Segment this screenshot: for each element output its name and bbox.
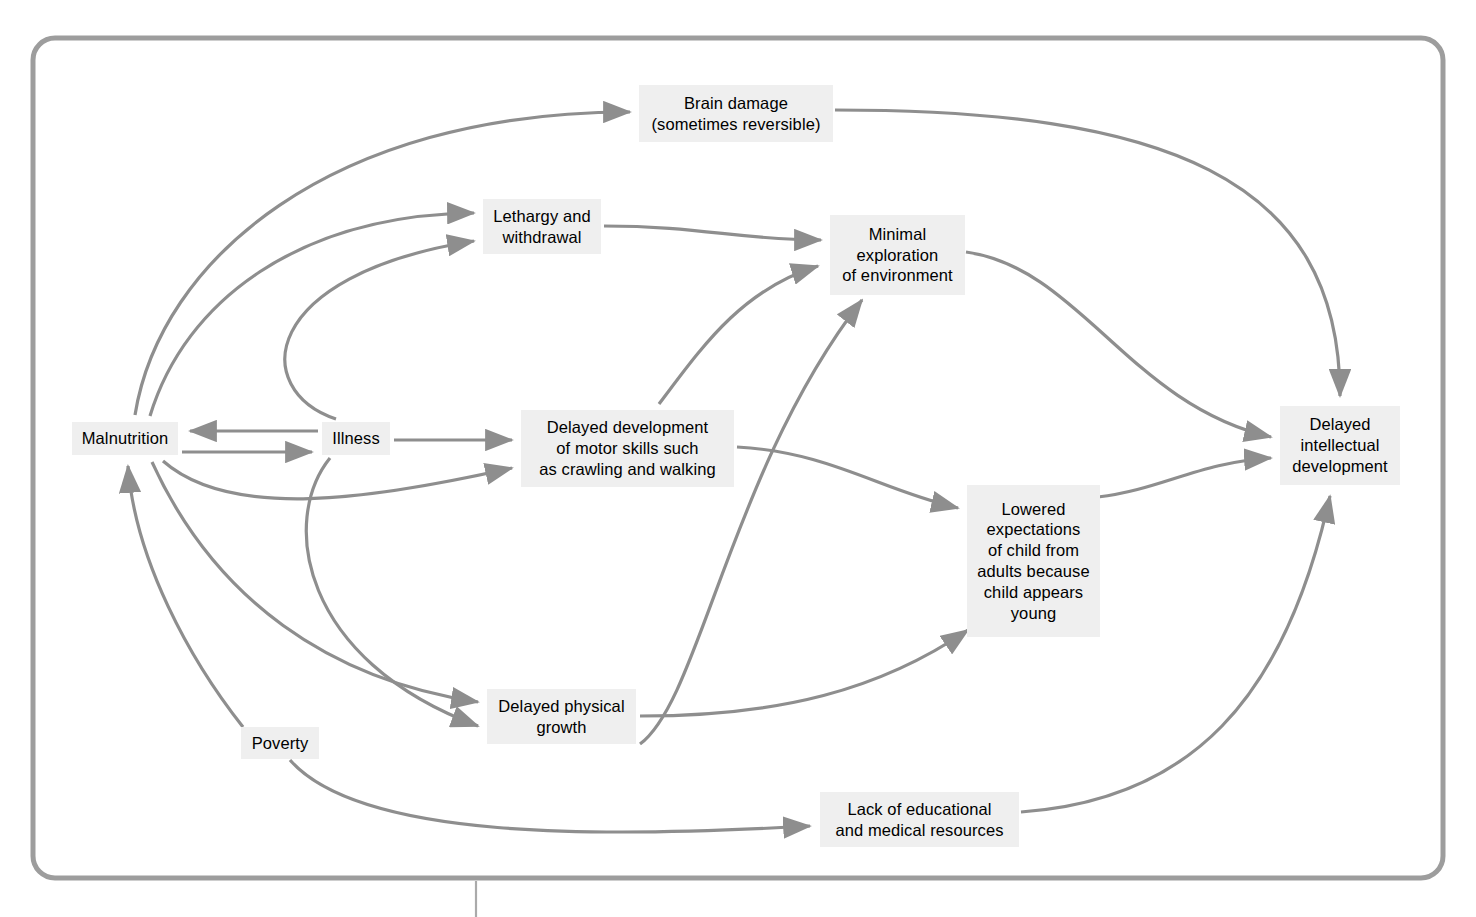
edge-lethargy-to-minimal-exploration	[604, 226, 821, 240]
node-brain-damage[interactable]: Brain damage (sometimes reversible)	[639, 85, 833, 142]
edge-malnutrition-to-lethargy	[150, 213, 474, 416]
edge-poverty-to-lack-resources	[290, 760, 810, 832]
edge-minimal-exploration-to-delayed-intellectual	[966, 252, 1271, 437]
node-delayed-motor-skills[interactable]: Delayed development of motor skills such…	[521, 410, 734, 487]
node-malnutrition[interactable]: Malnutrition	[72, 422, 178, 455]
node-lethargy-and-withdrawal[interactable]: Lethargy and withdrawal	[483, 199, 601, 254]
edge-lowered-expectations-to-delayed-intellectual	[1098, 458, 1271, 497]
edge-illness-to-lethargy	[285, 241, 474, 419]
node-lowered-expectations[interactable]: Lowered expectations of child from adult…	[967, 485, 1100, 637]
edge-delayed-growth-to-lowered-expectations	[640, 630, 968, 716]
edge-motor-skills-to-minimal-exploration	[659, 266, 818, 404]
node-minimal-exploration-of-environment[interactable]: Minimal exploration of environment	[830, 215, 965, 295]
node-delayed-intellectual-development[interactable]: Delayed intellectual development	[1280, 406, 1400, 485]
edge-poverty-to-malnutrition	[128, 466, 243, 727]
node-delayed-physical-growth[interactable]: Delayed physical growth	[487, 689, 636, 744]
node-poverty[interactable]: Poverty	[241, 727, 319, 759]
edge-malnutrition-to-motor-skills	[163, 461, 512, 499]
flow-diagram: Brain damage (sometimes reversible) Leth…	[0, 0, 1476, 917]
edge-delayed-growth-to-minimal-exploration	[640, 300, 862, 744]
node-lack-of-educational-and-medical-resources[interactable]: Lack of educational and medical resource…	[820, 792, 1019, 847]
node-illness[interactable]: Illness	[322, 422, 390, 455]
